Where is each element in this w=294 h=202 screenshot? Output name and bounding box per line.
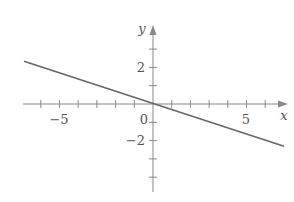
x-tick-label-5: 5 xyxy=(242,112,250,127)
y-axis-label: y xyxy=(137,21,146,36)
coordinate-plot: −5 0 5 2 −2 x y xyxy=(0,0,294,202)
y-axis-arrow-icon xyxy=(150,25,157,35)
y-tick-label-neg2: −2 xyxy=(126,133,145,148)
x-axis-arrow-icon xyxy=(278,101,288,108)
y-tick-label-2: 2 xyxy=(137,60,145,75)
x-tick-label-neg5: −5 xyxy=(49,112,68,127)
origin-label: 0 xyxy=(140,112,148,127)
x-axis-label: x xyxy=(280,108,288,123)
